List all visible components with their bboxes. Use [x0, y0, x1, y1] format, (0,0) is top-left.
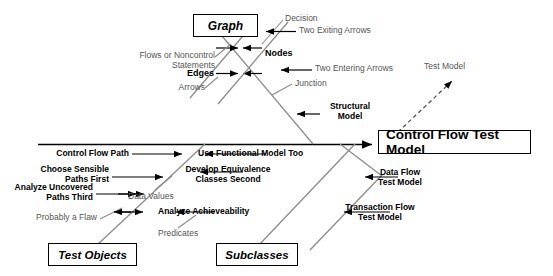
cause-two-exiting-arrows: Two Exiting Arrows [299, 26, 371, 36]
test-objects-box-label: Test Objects [58, 249, 127, 261]
cause-use-functional-model-too: Use Functional Model Too [198, 149, 303, 159]
graph-box[interactable]: Graph [193, 14, 258, 37]
nodes-label: Nodes [265, 48, 293, 58]
edges-label: Edges [156, 68, 214, 78]
cause-data-flow-test-model: Data Flow Test Model [370, 168, 430, 187]
cause-arrows: Arrows [163, 83, 205, 93]
test-model-annotation-label: Test Model [424, 62, 465, 72]
cause-decision: Decision [285, 14, 318, 24]
subclasses-box[interactable]: Subclasses [216, 243, 298, 266]
cause-data-values: Data Values [128, 192, 174, 202]
cause-junction: Junction [295, 79, 327, 89]
test-objects-box[interactable]: Test Objects [48, 243, 137, 266]
cause-predicates: Predicates [158, 229, 198, 239]
cause-transaction-flow-test-model: Transaction Flow Test Model [337, 203, 423, 222]
cause-analyze-achieveability: Analyze Achieveability [158, 207, 249, 217]
head-box-label: Control Flow Test Model [386, 127, 530, 157]
cause-develop-equivalence-classes-second: Develop Equivalence Classes Second [180, 165, 276, 184]
lower-right-rib [310, 144, 382, 250]
fishbone-diagram: Graph Test Objects Subclasses Control Fl… [0, 0, 553, 276]
subclasses-rib [258, 144, 355, 246]
graph-box-label: Graph [208, 19, 243, 33]
cause-probably-a-flaw: Probably a Flaw [19, 213, 97, 223]
cause-control-flow-path: Control Flow Path [47, 149, 129, 159]
control-flow-test-model-box[interactable]: Control Flow Test Model [378, 130, 531, 154]
cause-structural-model: Structural Model [322, 102, 378, 121]
cause-two-entering-arrows: Two Entering Arrows [315, 64, 393, 74]
test-model-dashed-arrow [398, 81, 452, 132]
cause-analyze-uncovered-paths-third: Analyze Uncovered Paths Third [5, 183, 93, 202]
subclasses-box-label: Subclasses [225, 249, 288, 261]
